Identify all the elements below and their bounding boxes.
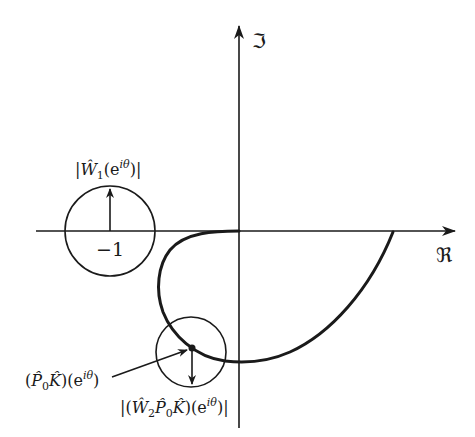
nyquist-point-pointer-arrow: [112, 350, 187, 377]
real-axis-label: ℜ: [436, 243, 453, 267]
nyquist-point-label: (P̂0K̂)(eiθ): [25, 369, 99, 393]
nyquist-point-disk: [156, 317, 226, 387]
imaginary-axis-label: ℑ: [252, 29, 266, 53]
nyquist-diagram: ℑ ℜ −1 |Ŵ1(eiθ)| (P̂0K̂)(eiθ) |(Ŵ2P̂0K̂)…: [0, 0, 475, 437]
w1-radius-label: |Ŵ1(eiθ)|: [75, 158, 141, 182]
nyquist-curve: [159, 231, 393, 362]
w2-radius-label: |(Ŵ2P̂0K̂)(eiθ)|: [120, 396, 229, 420]
diagram-svg: ℑ ℜ −1 |Ŵ1(eiθ)| (P̂0K̂)(eiθ) |(Ŵ2P̂0K̂)…: [0, 0, 475, 437]
minus-one-label: −1: [96, 238, 124, 260]
